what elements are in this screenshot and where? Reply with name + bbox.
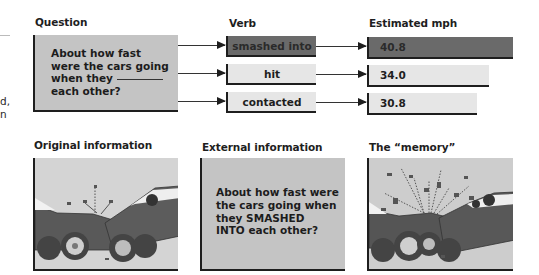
margin-rule (0, 35, 10, 36)
estimate-heading: Estimated mph (369, 17, 457, 29)
arrow-icon (316, 102, 366, 103)
verb-box-contacted: contacted (226, 92, 316, 113)
car-collision-icon (35, 158, 178, 271)
memory-image (367, 158, 513, 271)
verb-heading: Verb (229, 17, 256, 29)
question-text: About how fast were the cars going when … (51, 47, 169, 97)
external-text: About how fast were the cars going when … (216, 186, 339, 237)
original-heading: Original information (34, 139, 152, 151)
margin-text-fragment: d, (0, 95, 10, 107)
estimate-bar-contacted: 30.8 (367, 93, 477, 115)
estimate-bar-hit: 34.0 (367, 65, 489, 87)
arrow-icon (178, 45, 225, 46)
original-image (33, 158, 178, 271)
external-box: About how fast were the cars going when … (200, 158, 345, 271)
external-heading: External information (202, 141, 322, 153)
arrow-icon (178, 73, 225, 74)
estimate-bar-smashed-into: 40.8 (367, 37, 513, 59)
arrow-icon (316, 46, 366, 47)
arrow-icon (178, 101, 225, 102)
memory-heading: The “memory” (369, 141, 455, 153)
blank-line (117, 79, 163, 80)
verb-box-smashed-into: smashed into (226, 36, 316, 57)
arrow-icon (316, 74, 366, 75)
verb-box-hit: hit (226, 64, 316, 85)
question-heading: Question (35, 16, 87, 28)
margin-text-fragment: n (0, 108, 7, 120)
question-box: About how fast were the cars going when … (33, 35, 178, 112)
severe-crash-icon (369, 158, 513, 271)
